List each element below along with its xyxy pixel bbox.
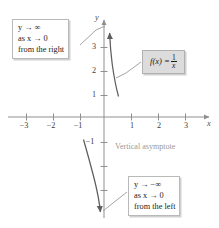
x-tick-label: −2	[46, 121, 56, 130]
x-tick-label: −3	[19, 121, 29, 130]
figure-graph-one-over-x: y x −3 −2 −1 1 2 3 3 2 1 −1 Vertical asy…	[0, 0, 219, 228]
callout-right-limit: y → ∞ as x → 0 from the right	[12, 19, 69, 59]
callout-right-limit-line2: as x → 0	[18, 34, 64, 45]
leader-line-function	[116, 62, 141, 78]
callout-function-definition: f(x) =1x	[142, 50, 185, 74]
y-tick-label: 3	[90, 42, 98, 51]
curve-branch-positive	[110, 33, 119, 97]
x-axis-label: x	[207, 119, 211, 128]
x-tick-label: 3	[182, 121, 190, 130]
y-tick-label-negative-one: −1	[84, 137, 96, 146]
callout-right-limit-line3: from the right	[18, 45, 64, 56]
function-fraction: 1x	[171, 54, 177, 70]
function-numerator: 1	[171, 54, 177, 62]
function-denominator: x	[171, 61, 177, 70]
vertical-asymptote-label: Vertical asymptote	[115, 142, 175, 151]
function-expression-lhs: f(x) =	[150, 56, 170, 66]
callout-left-limit-line1: y → −∞	[134, 180, 175, 191]
x-tick-label: 1	[128, 121, 136, 130]
y-tick-label: 1	[90, 90, 98, 99]
y-axis-label: y	[95, 13, 99, 22]
leader-line-bottom-right	[103, 192, 127, 211]
callout-left-limit: y → −∞ as x → 0 from the left	[128, 176, 180, 216]
curve-branch-negative	[84, 140, 101, 213]
callout-left-limit-line3: from the left	[134, 202, 175, 213]
callout-left-limit-line2: as x → 0	[134, 191, 175, 202]
x-tick-label: 2	[155, 121, 163, 130]
y-tick-label: 2	[90, 66, 98, 75]
x-tick-label: −1	[73, 121, 83, 130]
callout-right-limit-line1: y → ∞	[18, 23, 64, 34]
